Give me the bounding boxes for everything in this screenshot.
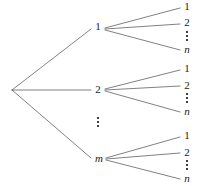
leaf-group3-1: 1	[181, 130, 193, 141]
leaf-group1-2: 2	[181, 17, 193, 28]
tree-edge	[105, 86, 180, 90]
node-level1-2: 2	[92, 84, 104, 95]
tree-edge	[105, 91, 180, 112]
leaf-group1-1: 1	[181, 1, 193, 12]
ellipsis-dot	[186, 39, 188, 41]
ellipsis-group1	[182, 31, 192, 41]
leaf-group1-n: n	[181, 44, 193, 55]
tree-edge	[12, 29, 91, 90]
ellipsis-dot	[97, 125, 99, 127]
tree-diagram: 1 2 m 1 2 n 1 2 n 1 2 n	[0, 0, 199, 186]
tree-edge	[106, 160, 180, 179]
ellipsis-dot	[186, 168, 188, 170]
tree-edge	[105, 70, 180, 89]
tree-edge	[106, 153, 180, 159]
leaf-group2-n: n	[181, 106, 193, 117]
ellipsis-dot	[186, 35, 188, 37]
ellipsis-dot	[186, 31, 188, 33]
leaf-group2-2: 2	[181, 80, 193, 91]
leaf-group3-2: 2	[181, 147, 193, 158]
ellipsis-dot	[186, 97, 188, 99]
ellipsis-dot	[97, 121, 99, 123]
node-level1-1: 1	[92, 21, 104, 32]
leaf-group3-n: n	[181, 173, 193, 184]
ellipsis-group2	[182, 93, 192, 103]
ellipsis-level1	[93, 117, 103, 127]
node-level1-m: m	[93, 153, 105, 164]
tree-edge	[105, 30, 180, 50]
ellipsis-dot	[186, 160, 188, 162]
tree-edge	[12, 90, 91, 158]
ellipsis-group3	[182, 160, 192, 170]
ellipsis-dot	[97, 117, 99, 119]
tree-edge	[106, 137, 180, 158]
ellipsis-dot	[186, 101, 188, 103]
leaf-group2-1: 1	[181, 63, 193, 74]
ellipsis-dot	[186, 93, 188, 95]
ellipsis-dot	[186, 164, 188, 166]
